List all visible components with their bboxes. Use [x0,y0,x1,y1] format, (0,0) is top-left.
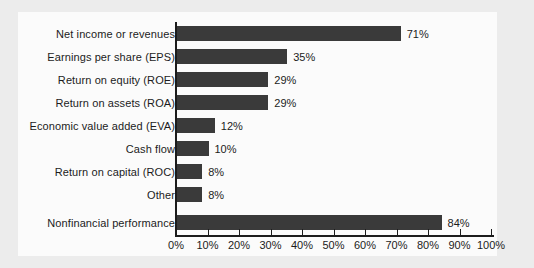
bar-value-label: 8% [208,166,224,178]
bar-value-label: 71% [407,28,429,40]
axis-tick [176,229,177,235]
bar-row: Economic value added (EVA)12% [18,118,497,133]
bar-row: Earnings per share (EPS)35% [18,49,497,64]
bar [177,141,209,156]
bar-value-label: 29% [274,74,296,86]
axis-tick [491,229,492,235]
bar-value-label: 29% [274,97,296,109]
bar-row: Cash flow10% [18,141,497,156]
axis-tick [428,229,429,235]
axis-tick-label: 60% [354,239,376,251]
chart-plot-area: Net income or revenues71%Earnings per sh… [18,12,497,256]
bar [177,164,202,179]
axis-tick [271,229,272,235]
bar-value-label: 10% [215,143,237,155]
axis-tick-label: 90% [448,239,470,251]
category-axis-line [175,235,494,237]
category-label: Net income or revenues [56,28,175,40]
axis-tick [239,229,240,235]
bar-row: Return on assets (ROA)29% [18,95,497,110]
category-label: Return on equity (ROE) [58,74,175,86]
axis-tick-label: 40% [291,239,313,251]
bar-row: Net income or revenues71% [18,26,497,41]
bar [177,118,215,133]
axis-tick-label: 20% [228,239,250,251]
category-label: Return on capital (ROC) [55,166,175,178]
axis-tick-label: 10% [196,239,218,251]
axis-tick-label: 30% [259,239,281,251]
axis-tick [208,229,209,235]
bar [177,26,401,41]
bar [177,72,268,87]
category-label: Nonfinancial performance [47,217,175,229]
bar-value-label: 35% [293,51,315,63]
axis-tick-label: 80% [417,239,439,251]
axis-tick [460,229,461,235]
axis-tick-label: 100% [477,239,505,251]
bar-value-label: 8% [208,189,224,201]
axis-tick-label: 50% [322,239,344,251]
axis-tick [302,229,303,235]
axis-tick-label: 70% [385,239,407,251]
bar [177,215,442,230]
category-label: Other [147,189,175,201]
bar-row: Nonfinancial performance84% [18,215,497,230]
axis-tick [334,229,335,235]
category-label: Earnings per share (EPS) [47,51,175,63]
axis-tick [397,229,398,235]
bar-row: Return on equity (ROE)29% [18,72,497,87]
category-label: Return on assets (ROA) [55,97,175,109]
bar [177,187,202,202]
axis-tick [365,229,366,235]
bar-value-label: 84% [448,217,470,229]
bar-row: Return on capital (ROC)8% [18,164,497,179]
bar [177,49,287,64]
bar-row: Other8% [18,187,497,202]
bar-value-label: 12% [221,120,243,132]
axis-tick-label: 0% [168,239,184,251]
bar [177,95,268,110]
category-label: Economic value added (EVA) [30,120,175,132]
category-label: Cash flow [126,143,175,155]
